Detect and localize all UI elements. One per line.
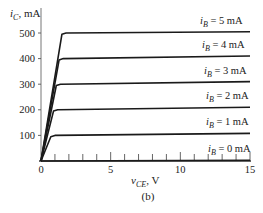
x-axis-title: vCE, V	[131, 174, 159, 189]
y-axis-title: iC, mA	[10, 7, 40, 22]
y-tick-label: 100	[19, 130, 35, 141]
curve-label-ib-0ma: iB = 0 mA	[208, 143, 251, 157]
y-tick-label: 300	[19, 79, 35, 90]
curve-label-ib-4ma: iB = 4 mA	[202, 39, 245, 53]
curve-label-ib-3ma: iB = 3 mA	[204, 65, 247, 79]
curve-ib-0ma	[41, 160, 250, 161]
x-tick-label: 10	[175, 164, 186, 175]
figure-caption: (b)	[142, 190, 155, 203]
y-tick-label: 400	[19, 53, 35, 64]
curve-labels: iB = 0 mAiB = 1 mAiB = 2 mAiB = 3 mAiB =…	[200, 15, 251, 158]
curve-label-ib-2ma: iB = 2 mA	[206, 90, 249, 104]
x-tick-label: 15	[245, 164, 256, 175]
ic-vce-characteristic-chart: 051015 100200300400500 iB = 0 mAiB = 1 m…	[0, 0, 263, 213]
x-ticks: 051015	[38, 152, 255, 175]
y-tick-label: 200	[19, 104, 35, 115]
y-ticks: 100200300400500	[19, 28, 41, 141]
x-tick-label: 0	[38, 164, 43, 175]
curve-label-ib-5ma: iB = 5 mA	[200, 15, 243, 29]
y-tick-label: 500	[19, 28, 35, 39]
curve-label-ib-1ma: iB = 1 mA	[206, 116, 249, 130]
x-tick-label: 5	[108, 164, 113, 175]
